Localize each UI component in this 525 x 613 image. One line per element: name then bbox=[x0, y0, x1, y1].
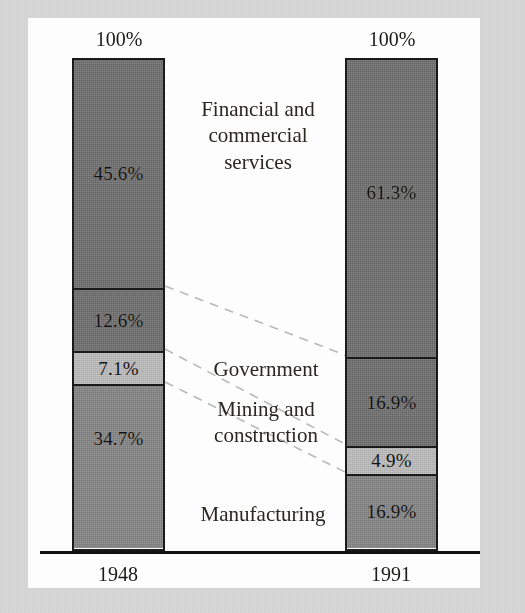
segment-value-label: 61.3% bbox=[366, 182, 416, 204]
series-label-financial-commercial-services: Financial and commercial services bbox=[168, 96, 348, 175]
category-label-1948: 1948 bbox=[48, 563, 188, 586]
chart-paper-area: 100% 45.6% 12.6% 7.1% 34.7% 1948 100% bbox=[28, 18, 480, 588]
bar-segment-manufacturing-1948[interactable]: 34.7% bbox=[74, 386, 163, 548]
segment-value-label: 45.6% bbox=[93, 163, 143, 185]
bar-segment-government-1948[interactable]: 12.6% bbox=[74, 290, 163, 353]
bar-segment-mining-1991[interactable]: 4.9% bbox=[347, 448, 436, 476]
leader-line-financial-government bbox=[165, 286, 345, 355]
bar-total-label-1991: 100% bbox=[332, 28, 452, 51]
segment-value-label: 16.9% bbox=[366, 392, 416, 414]
bar-segment-government-1991[interactable]: 16.9% bbox=[347, 359, 436, 448]
bar-segment-financial-1948[interactable]: 45.6% bbox=[74, 60, 163, 290]
segment-value-label: 12.6% bbox=[93, 310, 143, 332]
series-label-manufacturing: Manufacturing bbox=[168, 501, 358, 527]
series-label-government: Government bbox=[176, 356, 356, 382]
bar-segment-mining-1948[interactable]: 7.1% bbox=[74, 353, 163, 386]
bar-total-label-1948: 100% bbox=[59, 28, 179, 51]
category-label-1991: 1991 bbox=[321, 563, 461, 586]
segment-value-label: 34.7% bbox=[93, 428, 143, 450]
x-axis-line bbox=[40, 551, 480, 554]
stacked-bar-chart: 100% 45.6% 12.6% 7.1% 34.7% 1948 100% bbox=[28, 18, 480, 588]
series-label-mining-and-construction: Mining and construction bbox=[176, 396, 356, 449]
stacked-bar-1948[interactable]: 45.6% 12.6% 7.1% 34.7% bbox=[72, 58, 165, 551]
stacked-bar-1991[interactable]: 61.3% 16.9% 4.9% 16.9% bbox=[345, 58, 438, 551]
bar-segment-financial-1991[interactable]: 61.3% bbox=[347, 60, 436, 359]
callout-line: services bbox=[168, 149, 348, 175]
callout-line: commercial bbox=[168, 122, 348, 148]
callout-line: Financial and bbox=[168, 96, 348, 122]
scanned-page-frame: 100% 45.6% 12.6% 7.1% 34.7% 1948 100% bbox=[0, 0, 525, 613]
segment-value-label: 4.9% bbox=[371, 450, 411, 472]
segment-value-label: 16.9% bbox=[366, 501, 416, 523]
segment-value-label: 7.1% bbox=[98, 358, 138, 380]
bar-segment-manufacturing-1991[interactable]: 16.9% bbox=[347, 476, 436, 548]
callout-line: Mining and bbox=[176, 396, 356, 422]
callout-line: construction bbox=[176, 422, 356, 448]
